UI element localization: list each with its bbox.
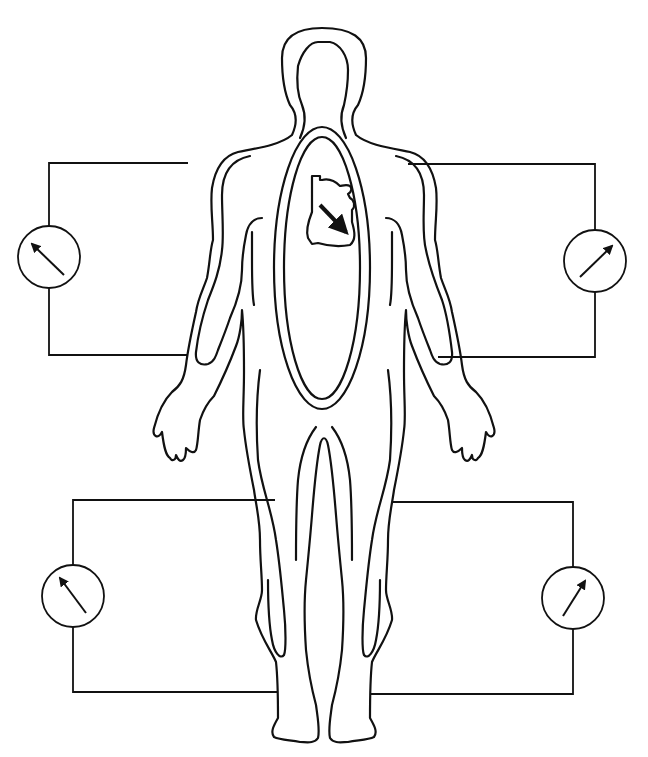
heart-dipole-arrow: [320, 205, 346, 232]
body-circuit-diagram: [0, 0, 648, 757]
heart-icon: [307, 176, 354, 246]
human-body-outline: [154, 28, 495, 742]
galvanometer-upper-left: [18, 226, 80, 288]
galvanometer-upper-right: [564, 230, 626, 292]
thorax-ellipse: [274, 127, 370, 409]
diagram-canvas: [0, 0, 648, 757]
galvanometer-lower-left: [42, 565, 104, 627]
galvanometer-lower-right: [542, 567, 604, 629]
